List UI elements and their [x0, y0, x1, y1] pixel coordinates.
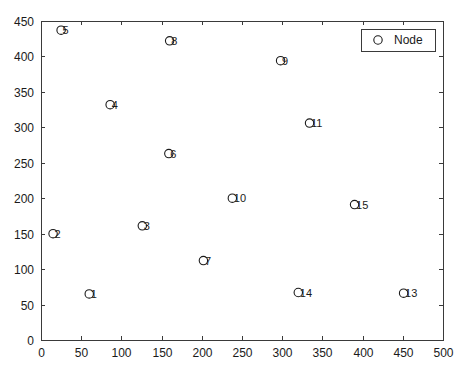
y-tick-label: 350 [14, 86, 34, 100]
x-tick-label: 450 [393, 346, 413, 360]
y-tick-label: 50 [21, 299, 35, 313]
chart-legend: Node [362, 30, 436, 52]
legend-entry-label: Node [394, 33, 423, 47]
figure-background [0, 0, 460, 373]
x-tick-label: 400 [353, 346, 373, 360]
x-tick-label: 150 [152, 346, 172, 360]
node-label: 9 [282, 55, 288, 67]
node-label: 14 [300, 287, 312, 299]
x-tick-label: 250 [232, 346, 252, 360]
x-tick-label: 100 [111, 346, 131, 360]
y-tick-label: 450 [14, 15, 34, 29]
node-label: 15 [356, 199, 368, 211]
x-tick-label: 0 [38, 346, 45, 360]
x-tick-label: 50 [75, 346, 89, 360]
y-tick-label: 100 [14, 263, 34, 277]
y-tick-label: 300 [14, 121, 34, 135]
x-tick-label: 350 [312, 346, 332, 360]
node-label: 13 [405, 287, 417, 299]
node-label: 1 [91, 288, 97, 300]
scatter-plot-figure: 050100150200250300350400450500 050100150… [0, 0, 460, 373]
y-tick-label: 400 [14, 50, 34, 64]
y-tick-label: 0 [27, 334, 34, 348]
node-label: 5 [63, 24, 69, 36]
node-label: 11 [311, 117, 322, 129]
node-label: 3 [144, 220, 150, 232]
y-tick-label: 150 [14, 228, 34, 242]
node-label: 2 [55, 228, 61, 240]
y-tick-label: 200 [14, 192, 34, 206]
node-label: 7 [205, 255, 211, 267]
y-tick-label: 250 [14, 157, 34, 171]
node-label: 10 [234, 192, 246, 204]
node-label: 6 [170, 148, 176, 160]
x-tick-label: 200 [192, 346, 212, 360]
node-label: 4 [112, 99, 118, 111]
x-tick-label: 300 [272, 346, 292, 360]
x-tick-label: 500 [433, 346, 453, 360]
node-label: 8 [171, 35, 177, 47]
